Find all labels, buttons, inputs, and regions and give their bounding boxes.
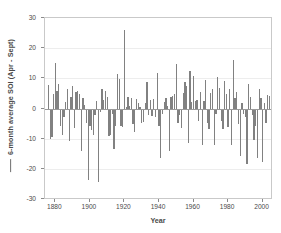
bar bbox=[51, 109, 52, 137]
bar bbox=[131, 98, 132, 109]
bar bbox=[67, 89, 68, 109]
bar bbox=[150, 100, 151, 109]
bar bbox=[153, 99, 154, 109]
bar bbox=[202, 109, 203, 145]
bar bbox=[134, 109, 135, 132]
bar bbox=[240, 109, 241, 156]
bar bbox=[157, 73, 158, 109]
x-tick-label: 1960 bbox=[185, 203, 200, 210]
bar bbox=[198, 109, 199, 121]
bar bbox=[227, 109, 228, 127]
bar bbox=[250, 97, 251, 109]
bar bbox=[155, 109, 156, 117]
bar bbox=[260, 98, 261, 109]
bar bbox=[107, 97, 108, 109]
bar bbox=[48, 85, 49, 109]
gridline bbox=[45, 78, 271, 79]
bar bbox=[231, 109, 232, 145]
bar bbox=[181, 109, 182, 128]
x-tick-label: 1880 bbox=[47, 203, 62, 210]
bar bbox=[58, 84, 59, 109]
x-tick-label: 1920 bbox=[116, 203, 131, 210]
bar bbox=[98, 109, 99, 182]
bar bbox=[74, 109, 75, 128]
bar bbox=[176, 64, 177, 109]
gridline bbox=[45, 139, 271, 140]
zero-baseline bbox=[45, 109, 271, 110]
bar bbox=[186, 86, 187, 109]
bar bbox=[200, 92, 201, 109]
x-tick-mark bbox=[123, 199, 124, 202]
bar bbox=[219, 88, 220, 109]
x-tick-mark bbox=[54, 199, 55, 202]
bar bbox=[205, 80, 206, 109]
bar bbox=[81, 109, 82, 151]
bar bbox=[214, 109, 215, 145]
x-tick-mark bbox=[158, 199, 159, 202]
x-tick-label: 2000 bbox=[254, 203, 269, 210]
bar bbox=[229, 89, 230, 109]
bar bbox=[146, 82, 147, 109]
bar bbox=[236, 92, 237, 109]
x-tick-mark bbox=[89, 199, 90, 202]
bar bbox=[124, 30, 125, 109]
x-tick-label: 1980 bbox=[220, 203, 235, 210]
bar bbox=[226, 94, 227, 109]
bar bbox=[143, 109, 144, 122]
bar bbox=[208, 109, 209, 129]
bar bbox=[196, 100, 197, 109]
bar bbox=[169, 109, 170, 151]
bar bbox=[96, 101, 97, 109]
bar bbox=[257, 109, 258, 158]
bar bbox=[69, 109, 70, 141]
bar bbox=[269, 96, 270, 109]
gridline bbox=[45, 169, 271, 170]
x-tick-label: 1940 bbox=[151, 203, 166, 210]
bar bbox=[122, 109, 123, 127]
bar bbox=[115, 109, 116, 126]
bar bbox=[222, 109, 223, 129]
bar bbox=[188, 109, 189, 143]
bar bbox=[265, 109, 266, 123]
plot-area bbox=[44, 17, 272, 199]
bar bbox=[79, 94, 80, 109]
bar bbox=[151, 109, 152, 116]
x-tick-label: 1900 bbox=[82, 203, 97, 210]
x-axis-title: Year bbox=[44, 216, 272, 225]
x-tick-mark bbox=[262, 199, 263, 202]
x-tick-mark bbox=[193, 199, 194, 202]
x-tick-mark bbox=[227, 199, 228, 202]
bar bbox=[262, 109, 263, 162]
chart-figure: 6-month average SOI (Apr - Sept) 30 20 1… bbox=[0, 0, 281, 233]
bar bbox=[212, 89, 213, 109]
bar bbox=[246, 109, 247, 164]
bar bbox=[119, 79, 120, 109]
bar bbox=[63, 109, 64, 117]
gridline bbox=[45, 48, 271, 49]
bar bbox=[160, 109, 161, 158]
bar bbox=[72, 86, 73, 109]
